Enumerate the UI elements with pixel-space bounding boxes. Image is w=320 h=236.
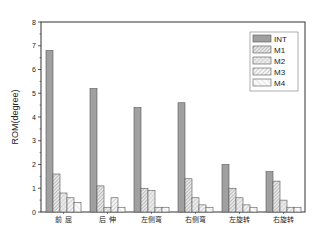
bar-m4 — [74, 203, 81, 213]
bar-group — [178, 103, 213, 212]
bar-int — [90, 89, 97, 213]
bar-m3 — [111, 198, 118, 212]
x-axis: 前 屈后 伸左侧弯右侧弯左旋转右旋转 — [55, 212, 294, 224]
bar-m2 — [60, 193, 67, 212]
legend-swatch-m2 — [253, 57, 271, 64]
bar-m2 — [236, 198, 243, 212]
bar-group — [222, 165, 257, 213]
bar-m2 — [104, 207, 111, 212]
legend-swatch-m1 — [253, 46, 271, 53]
bar-m1 — [141, 188, 148, 212]
bar-group — [90, 89, 125, 213]
y-tick-label: 4 — [32, 114, 36, 121]
bar-int — [134, 108, 141, 213]
bar-m1 — [229, 188, 236, 212]
x-tick-label: 左旋转 — [229, 215, 250, 224]
bar-m1 — [273, 181, 280, 212]
y-tick-label: 5 — [32, 90, 36, 97]
legend: INTM1M2M3M4 — [250, 32, 298, 91]
bar-m4 — [206, 207, 213, 212]
bar-m2 — [280, 200, 287, 212]
bar-group — [266, 172, 301, 212]
y-axis-label: ROM(degree) — [10, 89, 20, 144]
y-tick-label: 0 — [32, 209, 36, 216]
legend-swatch-m4 — [253, 79, 271, 86]
y-tick-label: 6 — [32, 66, 36, 73]
bar-m4 — [294, 207, 301, 212]
y-tick-label: 8 — [32, 19, 36, 26]
bar-chart: 012345678 前 屈后 伸左侧弯右侧弯左旋转右旋转 INTM1M2M3M4… — [0, 0, 320, 236]
legend-label: M2 — [274, 57, 286, 66]
legend-label: INT — [274, 35, 287, 44]
legend-swatch-m3 — [253, 68, 271, 75]
bar-int — [222, 165, 229, 213]
bar-group — [46, 51, 81, 213]
y-axis: 012345678 — [32, 19, 41, 216]
bar-m1 — [185, 179, 192, 212]
y-tick-label: 3 — [32, 137, 36, 144]
bar-m4 — [118, 207, 125, 212]
x-tick-label: 右侧弯 — [185, 215, 206, 224]
y-tick-label: 1 — [32, 185, 36, 192]
bar-m1 — [97, 186, 104, 212]
bar-m3 — [287, 207, 294, 212]
bar-m4 — [162, 207, 169, 212]
x-tick-label: 后 伸 — [99, 215, 115, 224]
legend-label: M3 — [274, 68, 286, 77]
bar-group — [134, 108, 169, 213]
bar-m3 — [155, 207, 162, 212]
bar-int — [46, 51, 53, 213]
bar-m3 — [67, 198, 74, 212]
bar-int — [266, 172, 273, 212]
bar-m3 — [243, 205, 250, 212]
y-tick-label: 2 — [32, 161, 36, 168]
legend-label: M4 — [274, 79, 286, 88]
x-tick-label: 右旋转 — [273, 215, 294, 224]
legend-label: M1 — [274, 46, 286, 55]
legend-swatch-int — [253, 35, 271, 42]
y-tick-label: 7 — [32, 42, 36, 49]
x-tick-label: 左侧弯 — [141, 215, 162, 224]
bar-m4 — [250, 207, 257, 212]
bar-int — [178, 103, 185, 212]
bar-m1 — [53, 174, 60, 212]
bar-m2 — [192, 198, 199, 212]
bar-m2 — [148, 191, 155, 212]
x-tick-label: 前 屈 — [55, 215, 71, 224]
bar-m3 — [199, 205, 206, 212]
